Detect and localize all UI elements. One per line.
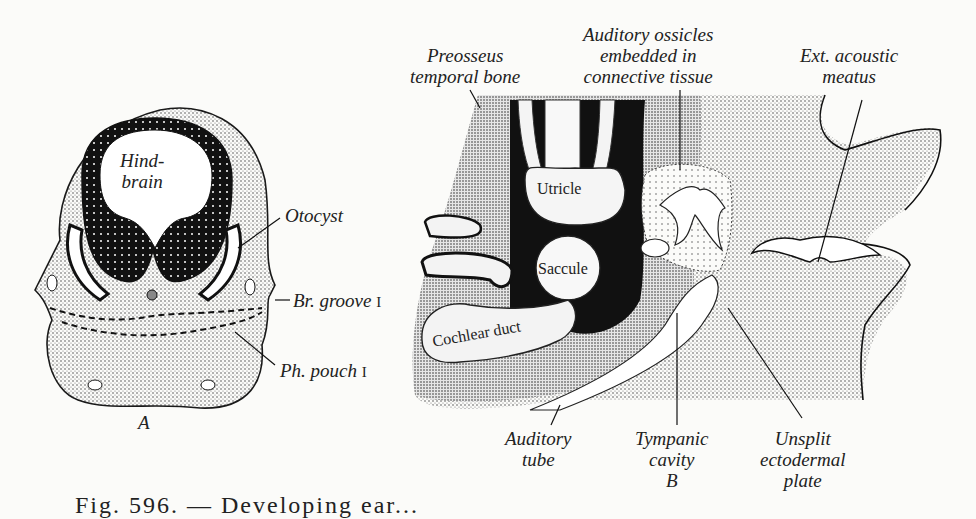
ossicles-label: Auditory ossicles embedded in connective… [583, 24, 713, 87]
unsplit-plate-label: Unsplit ectodermal plate [760, 428, 845, 491]
hindbrain-label: Hind- brain [120, 150, 164, 192]
vessel-bottom-right [201, 380, 215, 390]
ossicles-line2: embedded in [583, 45, 713, 66]
unsplit-line3: plate [760, 470, 845, 491]
br-groove-text: Br. groove [293, 290, 371, 311]
hindbrain-label-line1: Hind- [120, 150, 164, 171]
ext-meatus-line1: Ext. acoustic [800, 45, 898, 66]
notochord [147, 290, 157, 300]
auditory-tube-label: Auditory tube [505, 428, 572, 470]
saccule-label: Saccule [538, 260, 588, 278]
tympanic-cavity-label: Tympanic cavity B [635, 428, 709, 491]
otocyst-label: Otocyst [285, 205, 343, 226]
ph-pouch-label: Ph. pouch I [280, 360, 367, 383]
br-groove-numeral: I [376, 294, 381, 310]
preosseus-line1: Preosseus [410, 45, 520, 66]
panel-a-letter: A [138, 412, 150, 433]
preosseus-line2: temporal bone [410, 66, 520, 87]
tympanic-line2: cavity [635, 449, 709, 470]
unsplit-line2: ectodermal [760, 449, 845, 470]
ext-meatus-line2: meatus [800, 66, 898, 87]
stapes [641, 239, 669, 257]
ext-meatus-label: Ext. acoustic meatus [800, 45, 898, 87]
panel-b-letter: B [635, 470, 709, 491]
preosseus-label: Preosseus temporal bone [410, 45, 520, 87]
br-groove-label: Br. groove I [293, 290, 381, 313]
vessel-right [245, 279, 255, 295]
ossicles-line3: connective tissue [583, 66, 713, 87]
auditory-tube-line2: tube [505, 449, 572, 470]
ph-pouch-numeral: I [362, 364, 367, 380]
vessel-left [47, 275, 57, 291]
unsplit-line1: Unsplit [760, 428, 845, 449]
tympanic-line1: Tympanic [635, 428, 709, 449]
figure-caption: Fig. 596. — Developing ear... [75, 492, 419, 519]
ossicles-line1: Auditory ossicles [583, 24, 713, 45]
vessel-bottom-left [88, 380, 102, 390]
auditory-tube-line1: Auditory [505, 428, 572, 449]
hindbrain-label-line2: brain [120, 171, 164, 192]
utricle-label: Utricle [537, 180, 581, 198]
ph-pouch-text: Ph. pouch [280, 360, 357, 381]
panel-b-middle-ear [413, 90, 941, 425]
